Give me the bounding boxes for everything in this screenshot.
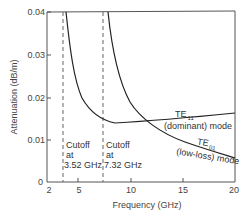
y-tick-label: 0.01	[27, 135, 45, 145]
svg-text:at: at	[66, 150, 74, 160]
cutoff-annotation-2: Cutoff at 7.32 GHz	[104, 140, 143, 170]
x-axis-ticks	[78, 178, 183, 182]
svg-text:TE11: TE11	[175, 109, 194, 121]
te01-curve	[108, 12, 235, 158]
x-tick-label: 10	[126, 185, 136, 195]
cutoff-annotation-1: Cutoff at 3.52 GHz	[64, 140, 103, 170]
svg-text:7.32 GHz: 7.32 GHz	[104, 160, 143, 170]
y-tick-label: 0.03	[27, 50, 45, 60]
x-tick-labels: 2 5 10 15 20	[46, 185, 239, 195]
y-tick-label: 0.04	[27, 7, 45, 17]
svg-text:Cutoff: Cutoff	[66, 140, 90, 150]
x-tick-label: 5	[76, 185, 81, 195]
svg-text:Cutoff: Cutoff	[106, 140, 130, 150]
x-tick-label: 15	[178, 185, 188, 195]
y-axis-ticks	[47, 12, 51, 140]
x-tick-label: 20	[229, 185, 239, 195]
svg-text:3.52 GHz: 3.52 GHz	[64, 160, 103, 170]
te11-curve	[66, 12, 235, 123]
attenuation-chart: 0.04 0.03 0.02 0.01 0 2 5 10 15 20 Frequ…	[0, 0, 248, 222]
svg-text:at: at	[106, 150, 114, 160]
y-tick-label: 0.02	[27, 93, 45, 103]
x-axis-title: Frequency (GHz)	[112, 200, 181, 210]
y-axis-title: Attenuation (dB/m)	[9, 59, 19, 134]
svg-text:(dominant) mode: (dominant) mode	[164, 121, 232, 131]
y-tick-labels: 0.04 0.03 0.02 0.01 0	[27, 7, 45, 187]
y-tick-label: 0	[38, 177, 43, 187]
te11-label: TE11 (dominant) mode	[164, 109, 232, 131]
te01-label: TE01 (low-loss) mode	[176, 134, 242, 167]
x-tick-label: 2	[46, 185, 51, 195]
